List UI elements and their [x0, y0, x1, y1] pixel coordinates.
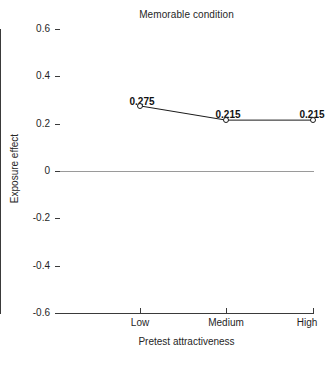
data-series-line: [0, 0, 336, 365]
figure: Memorable condition 0.6 0.4 0.2 0 -0.2 -…: [0, 0, 336, 365]
scan-artifact: [0, 352, 336, 365]
